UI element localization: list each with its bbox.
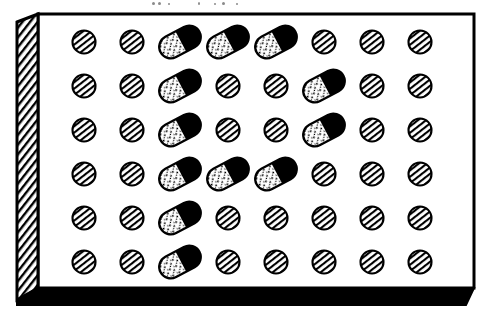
tablet [409, 75, 432, 98]
tablet [217, 75, 240, 98]
tablet [265, 207, 288, 230]
tablet [73, 75, 96, 98]
tablet [121, 251, 144, 274]
tablet [265, 119, 288, 142]
scan-speck [222, 2, 225, 5]
scan-speck [158, 2, 161, 5]
tablet [73, 207, 96, 230]
tablet [121, 31, 144, 54]
tablet [409, 207, 432, 230]
tablet [313, 31, 336, 54]
front-edge [17, 288, 474, 305]
tablet [361, 119, 384, 142]
pill-tray-figure [0, 0, 485, 321]
tablet [361, 31, 384, 54]
tablet [217, 119, 240, 142]
tablet [361, 75, 384, 98]
scan-speck [236, 3, 238, 5]
tablet [73, 119, 96, 142]
tablet [73, 163, 96, 186]
tablet [217, 207, 240, 230]
tablet [121, 119, 144, 142]
tablet [73, 31, 96, 54]
tablet [121, 75, 144, 98]
scan-speck [214, 3, 216, 5]
tablet [409, 119, 432, 142]
scan-speck [198, 2, 200, 5]
tablet [361, 251, 384, 274]
scan-speck [168, 3, 170, 5]
tablet [409, 251, 432, 274]
tablet [121, 207, 144, 230]
tablet [313, 251, 336, 274]
tablet [409, 31, 432, 54]
tablet [409, 163, 432, 186]
tablet [265, 75, 288, 98]
tablet [265, 251, 288, 274]
tablet [121, 163, 144, 186]
tray-interior [38, 14, 474, 288]
scan-speck [152, 2, 155, 5]
tablet [73, 251, 96, 274]
tablet [361, 207, 384, 230]
tablet [313, 163, 336, 186]
illustration-canvas [0, 0, 485, 321]
tablet [313, 207, 336, 230]
left-side-wall [17, 14, 38, 300]
tablet [361, 163, 384, 186]
tablet [217, 251, 240, 274]
